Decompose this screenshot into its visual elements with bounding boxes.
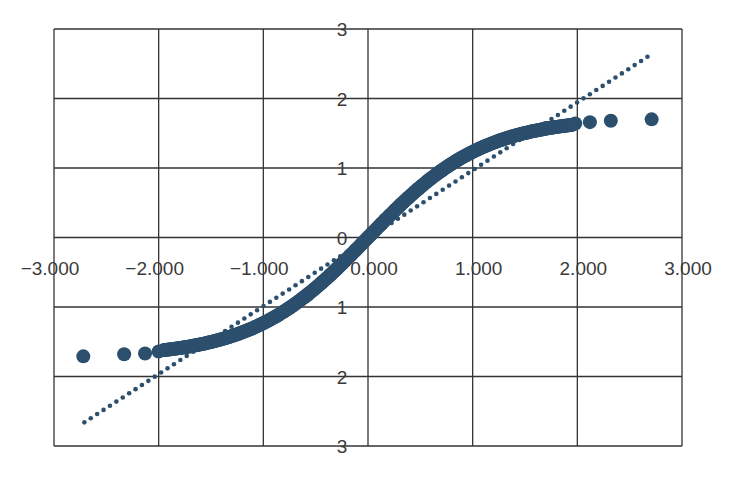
reference-line-dot <box>242 316 247 321</box>
reference-line-dot <box>146 379 151 384</box>
reference-line-dot <box>82 420 87 425</box>
reference-line-dot <box>140 383 145 388</box>
reference-line-dot <box>498 150 503 155</box>
reference-line-dot <box>466 171 471 176</box>
y-tick-label: 1 <box>337 158 348 179</box>
reference-line-dot <box>287 287 292 292</box>
reference-line-dot <box>274 295 279 300</box>
y-tick-label: 2 <box>337 367 348 388</box>
reference-line-dot <box>645 55 650 60</box>
data-point <box>117 347 131 361</box>
reference-line-dot <box>453 179 458 184</box>
reference-line-dot <box>415 204 420 209</box>
reference-line-dot <box>306 275 311 280</box>
y-axis-tick-labels: 3210123 <box>337 19 348 457</box>
reference-line-dot <box>255 308 260 313</box>
reference-line-dot <box>293 283 298 288</box>
reference-line-dot <box>447 183 452 188</box>
reference-line-dot <box>133 387 138 392</box>
reference-line-dot <box>280 291 285 296</box>
reference-line-dot <box>248 312 253 317</box>
reference-line-dot <box>152 374 157 379</box>
reference-line-dot <box>159 370 164 375</box>
reference-line-dot <box>421 200 426 205</box>
reference-line-dot <box>268 300 273 305</box>
reference-line-dot <box>575 100 580 105</box>
reference-line-dot <box>434 192 439 197</box>
reference-line-dot <box>632 63 637 68</box>
data-point <box>568 117 582 131</box>
reference-line-dot <box>101 408 106 413</box>
x-tick-label: 3.000 <box>664 258 712 279</box>
x-tick-label: −3.000 <box>21 258 80 279</box>
data-point <box>138 347 152 361</box>
reference-line-dot <box>607 79 612 84</box>
reference-line-dot <box>127 391 132 396</box>
reference-line-dot <box>594 88 599 93</box>
reference-line-dot <box>178 358 183 363</box>
reference-line-dot <box>120 395 125 400</box>
reference-line-dot <box>236 320 241 325</box>
data-point <box>583 115 597 129</box>
reference-line-dot <box>492 154 497 159</box>
reference-line-dot <box>600 84 605 89</box>
x-tick-label: −1.000 <box>230 258 289 279</box>
y-tick-label: 1 <box>337 297 348 318</box>
x-tick-label: 1.000 <box>455 258 503 279</box>
reference-line-dot <box>568 104 573 109</box>
reference-line-dot <box>613 75 618 80</box>
data-point <box>604 114 618 128</box>
y-tick-label: 0 <box>337 228 348 249</box>
reference-line-dot <box>562 109 567 114</box>
reference-line-dot <box>485 158 490 163</box>
reference-line-dot <box>588 92 593 97</box>
reference-line-dot <box>172 362 177 367</box>
y-tick-label: 2 <box>337 89 348 110</box>
reference-line-dot <box>88 416 93 421</box>
qq-plot-chart: −3.000−2.000−1.0000.0001.0002.0003.000 3… <box>0 0 735 482</box>
reference-line-dot <box>460 175 465 180</box>
reference-line-dot <box>479 163 484 168</box>
reference-line-dot <box>114 399 119 404</box>
reference-line-dot <box>440 187 445 192</box>
reference-line-dot <box>402 212 407 217</box>
reference-line-dot <box>300 279 305 284</box>
reference-line-dot <box>428 196 433 201</box>
reference-line-dot <box>261 304 266 309</box>
reference-line-dot <box>319 266 324 271</box>
reference-line-dot <box>165 366 170 371</box>
reference-line-dot <box>325 262 330 267</box>
reference-line-dot <box>639 59 644 64</box>
data-point <box>152 344 166 358</box>
y-tick-label: 3 <box>337 436 348 457</box>
x-tick-label: 0.000 <box>350 258 398 279</box>
reference-line-dot <box>472 167 477 172</box>
reference-line-dot <box>581 96 586 101</box>
reference-line-dot <box>312 271 317 276</box>
data-point <box>645 112 659 126</box>
reference-line-dot <box>108 403 113 408</box>
x-tick-label: 2.000 <box>560 258 608 279</box>
reference-line-dot <box>408 208 413 213</box>
y-tick-label: 3 <box>337 19 348 40</box>
reference-line-dot <box>556 113 561 118</box>
reference-line-dot <box>626 67 631 72</box>
data-point <box>76 349 90 363</box>
x-tick-label: −2.000 <box>125 258 184 279</box>
x-axis-tick-labels: −3.000−2.000−1.0000.0001.0002.0003.000 <box>21 258 712 279</box>
reference-line-dot <box>184 354 189 359</box>
reference-line-dot <box>95 412 100 417</box>
reference-line-dot <box>620 71 625 76</box>
reference-line-dot <box>504 146 509 151</box>
